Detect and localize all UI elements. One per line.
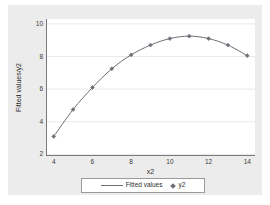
legend-entry-y2: y2 (171, 182, 185, 189)
y-tick-label: 8 (39, 53, 43, 60)
y-tick-label: 4 (39, 119, 43, 126)
graph-canvas: 246810 468101214 Fitted values/y2 x2 Fit… (8, 5, 262, 195)
x-tick-label: 12 (205, 159, 212, 166)
plot-region (46, 19, 255, 156)
series-markers-y2 (52, 34, 249, 138)
legend-entry-fitted-values: Fitted values (101, 182, 163, 189)
x-tick-label: 8 (129, 159, 133, 166)
axis-lines (46, 19, 255, 156)
y-tick-label: 10 (36, 21, 43, 28)
axis-ticks (46, 24, 247, 156)
x-tick-label: 4 (52, 159, 56, 166)
y-axis-tick-labels: 246810 (32, 19, 43, 156)
x-tick-label: 14 (244, 159, 251, 166)
x-tick-label: 10 (166, 159, 173, 166)
legend-label-y2: y2 (178, 182, 185, 189)
legend-label-fitted-values: Fitted values (126, 182, 163, 189)
y-axis-title: Fitted values/y2 (15, 19, 26, 156)
x-axis-title: x2 (46, 168, 255, 175)
y-tick-label: 6 (39, 86, 43, 93)
x-tick-label: 6 (91, 159, 95, 166)
legend: Fitted values y2 (81, 178, 205, 193)
diamond-marker-icon (171, 183, 177, 189)
plot-svg (46, 19, 255, 156)
y-tick-label: 2 (39, 151, 43, 158)
line-swatch-icon (101, 185, 123, 186)
chart-screenshot: 246810 468101214 Fitted values/y2 x2 Fit… (0, 0, 270, 205)
